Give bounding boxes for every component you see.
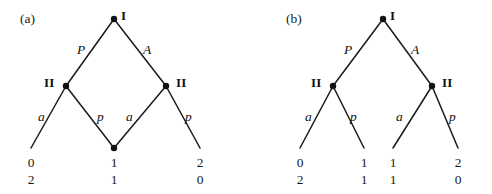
edge-label-a-p-5: p [185,110,192,124]
edge-label-b-p-3: p [350,110,357,124]
tree-edge-a-p-3 [66,86,114,148]
tree-edge-b-p-3 [333,86,364,148]
root-node-a [111,16,117,22]
edge-label-a-p-3: p [97,110,104,124]
decision-player-label-b-0: II [311,76,322,89]
payoff-a-0: 02 [11,154,51,188]
tree-edge-a-A-1 [114,19,166,86]
edge-label-a-P-0: P [77,43,85,57]
payoff-player1-b-3: 2 [438,154,478,171]
tree-edge-a-a-4 [114,86,166,148]
decision-player-label-a-0: II [44,76,55,89]
edge-label-b-a-4: a [396,110,403,124]
decision-node-a-0 [63,83,69,89]
game-tree-figure: (a)PAapapIIIII021120(b)PAapapIIIII021111… [0,0,492,194]
payoff-player1-a-1: 1 [94,154,134,171]
edge-label-a-A-1: A [143,43,151,57]
payoff-a-2: 20 [180,154,220,188]
decision-player-label-b-1: II [442,76,453,89]
edge-label-b-P-0: P [344,43,352,57]
tree-edge-b-A-1 [383,19,432,86]
root-player-label-a: I [121,9,126,22]
panel-tag-a: (a) [20,12,35,26]
root-player-label-b: I [390,9,395,22]
panel-tag-b: (b) [286,12,302,26]
tree-edge-a-a-2 [31,86,66,148]
edge-label-a-a-4: a [126,110,133,124]
edge-line-group [31,19,458,148]
decision-player-label-a-1: II [176,76,187,89]
payoff-player2-b-0: 2 [280,171,320,188]
edge-label-b-A-1: A [411,43,419,57]
node-dot-group [63,16,435,151]
payoff-player1-a-2: 2 [180,154,220,171]
tree-edges-layer [0,0,492,194]
payoff-b-3: 20 [438,154,478,188]
tree-edge-a-P-0 [66,19,114,86]
payoff-player2-b-2: 1 [373,171,413,188]
terminal-merge-node-a [111,145,117,151]
payoff-player2-b-3: 0 [438,171,478,188]
payoff-player2-a-1: 1 [94,171,134,188]
edge-label-b-a-2: a [305,110,312,124]
tree-edge-b-P-0 [333,19,383,86]
payoff-b-2: 11 [373,154,413,188]
tree-edge-a-p-5 [166,86,200,148]
payoff-player1-a-0: 0 [11,154,51,171]
decision-node-a-1 [163,83,169,89]
payoff-b-0: 02 [280,154,320,188]
edge-label-a-a-2: a [38,110,45,124]
decision-node-b-0 [330,83,336,89]
decision-node-b-1 [429,83,435,89]
payoff-a-1: 11 [94,154,134,188]
payoff-player1-b-0: 0 [280,154,320,171]
payoff-player2-a-0: 2 [11,171,51,188]
edge-label-b-p-5: p [449,110,456,124]
root-node-b [380,16,386,22]
payoff-player1-b-2: 1 [373,154,413,171]
payoff-player2-a-2: 0 [180,171,220,188]
